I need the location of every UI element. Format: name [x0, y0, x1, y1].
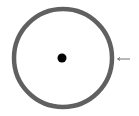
center-dot [58, 54, 67, 63]
arrow-left-icon [118, 58, 131, 61]
diagram-canvas [0, 0, 139, 116]
